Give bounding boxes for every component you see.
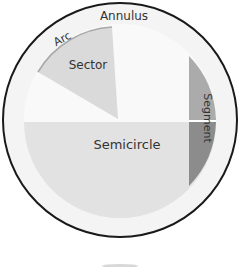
label-annulus: Annulus: [100, 9, 148, 23]
label-semicircle: Semicircle: [93, 137, 160, 152]
circle-parts-diagram: Annulus Arc Sector Semicircle Segment: [0, 0, 241, 267]
label-sector: Sector: [69, 58, 108, 72]
label-segment: Segment: [201, 93, 214, 143]
